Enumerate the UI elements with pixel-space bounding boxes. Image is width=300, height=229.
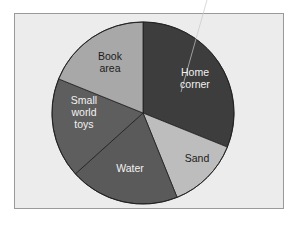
- slice-label-sand: Sand: [185, 152, 210, 164]
- slice-label-book-area: Bookarea: [98, 50, 123, 74]
- slice-label-home-corner: Homecorner: [180, 66, 210, 90]
- slice-label-small-world-toys: Smallworldtoys: [70, 94, 97, 130]
- pie-chart: HomecornerSandWaterSmallworldtoysBookare…: [0, 0, 300, 229]
- slice-label-water: Water: [116, 162, 144, 174]
